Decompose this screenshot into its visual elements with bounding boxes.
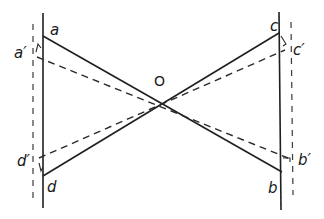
label-o: O <box>154 73 165 89</box>
label-d-prime: d′ <box>17 152 31 170</box>
arrow-a-to-a-prime-icon <box>36 44 41 52</box>
label-b: b <box>268 179 278 197</box>
label-a: a <box>50 21 59 39</box>
label-c-prime: c′ <box>293 41 305 59</box>
line-d-prime-c-prime <box>39 50 285 158</box>
diagram-svg: a a′ c c′ O d′ d b′ b <box>0 0 324 219</box>
label-b-prime: b′ <box>298 151 312 169</box>
right-vertical-line <box>279 12 281 210</box>
arrow-b-to-b-prime-icon <box>283 158 290 162</box>
diagram-canvas: a a′ c c′ O d′ d b′ b <box>0 0 324 219</box>
label-a-prime: a′ <box>14 44 27 62</box>
arrow-c-to-c-prime-icon <box>281 36 286 46</box>
label-c: c <box>270 17 279 35</box>
label-d: d <box>47 178 57 196</box>
